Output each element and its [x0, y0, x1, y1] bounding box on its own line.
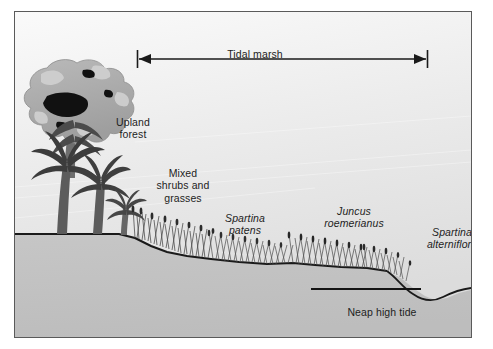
label-spartina-alterniflora: Spartina alterniflora [427, 226, 472, 251]
tidal-marsh-scene [15, 12, 471, 337]
label-mixed-shrubs-and-grasses: Mixed shrubs and grasses [157, 167, 210, 204]
label-spartina-patens: Spartina patens [225, 212, 265, 237]
label-neap-high-tide: Neap high tide [347, 306, 416, 318]
figure-page: Tidal marsh Upland forest Mixed shrubs a… [0, 0, 493, 349]
figure-frame: Tidal marsh Upland forest Mixed shrubs a… [14, 11, 472, 338]
label-tidal-marsh: Tidal marsh [227, 48, 283, 60]
label-juncus-roemerianus: Juncus roemerianus [324, 205, 383, 230]
label-upland-forest: Upland forest [116, 116, 150, 141]
